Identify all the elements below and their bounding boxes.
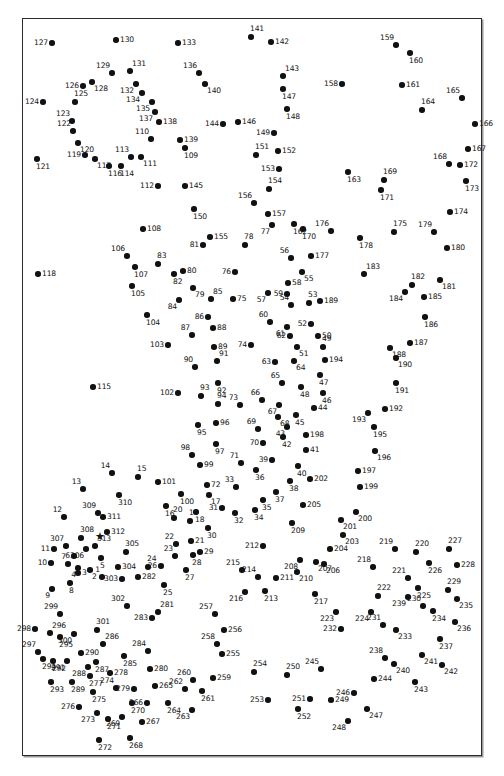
- dot-marker: [298, 384, 304, 390]
- dot-label: 217: [314, 598, 328, 606]
- dot-label: 80: [187, 267, 196, 275]
- dot-label: 90: [184, 356, 193, 364]
- dot-label: 307: [50, 535, 64, 543]
- dot-marker: [345, 169, 351, 175]
- dot-marker: [149, 615, 155, 621]
- dot-label: 309: [82, 502, 96, 510]
- dot-marker: [253, 152, 259, 158]
- dot-label: 42: [282, 441, 291, 449]
- dot-label: 47: [319, 379, 328, 387]
- dot-label: 35: [262, 504, 271, 512]
- dot-marker: [422, 314, 428, 320]
- dot-marker: [128, 154, 134, 160]
- dot-marker: [121, 653, 127, 659]
- dot-marker: [195, 422, 201, 428]
- dot-label: 110: [135, 128, 149, 136]
- dot-label: 255: [226, 650, 240, 658]
- dot-label: 106: [111, 245, 125, 253]
- dot-marker: [311, 405, 317, 411]
- dot-marker: [96, 737, 102, 743]
- dot-label: 112: [140, 182, 154, 190]
- dot-label: 18: [195, 516, 204, 524]
- dot-label: 250: [286, 663, 300, 671]
- dot-marker: [268, 39, 274, 45]
- dot-label: 198: [310, 431, 324, 439]
- dot-label: 165: [446, 87, 460, 95]
- dot-label: 64: [296, 364, 305, 372]
- dot-label: 132: [120, 87, 134, 95]
- dot-marker: [49, 586, 55, 592]
- dot-marker: [204, 482, 210, 488]
- dot-label: 297: [22, 641, 36, 649]
- dot-label: 222: [377, 584, 391, 592]
- dot-label: 96: [220, 419, 229, 427]
- dot-label: 176: [315, 220, 329, 228]
- dot-marker: [132, 264, 138, 270]
- dot-marker: [280, 73, 286, 79]
- dot-label: 226: [428, 567, 442, 575]
- dot-marker: [297, 557, 303, 563]
- dot-label: 265: [159, 682, 173, 690]
- dot-label: 139: [184, 136, 198, 144]
- dot-label: 97: [215, 448, 224, 456]
- dot-label: 55: [304, 275, 313, 283]
- dot-marker: [251, 200, 257, 206]
- dot-marker: [285, 280, 291, 286]
- dot-marker: [262, 588, 268, 594]
- dot-marker: [357, 484, 363, 490]
- dot-marker: [221, 627, 227, 633]
- dot-marker: [284, 106, 290, 112]
- dot-marker: [235, 119, 241, 125]
- dot-label: 279: [116, 685, 130, 693]
- dot-label: 210: [299, 575, 313, 583]
- dot-label: 100: [180, 498, 194, 506]
- dot-marker: [83, 546, 89, 552]
- dot-label: 211: [280, 574, 294, 582]
- dot-marker: [78, 535, 84, 541]
- dot-marker: [70, 128, 76, 134]
- dot-label: 81: [190, 241, 199, 249]
- dot-marker: [407, 50, 413, 56]
- dot-label: 9: [45, 592, 50, 600]
- dot-label: 251: [292, 695, 306, 703]
- dot-label: 150: [193, 213, 207, 221]
- dot-marker: [176, 297, 182, 303]
- dot-marker: [409, 282, 415, 288]
- dot-layer: 1234567891011121314151617181920212223242…: [0, 0, 504, 776]
- dot-label: 290: [85, 649, 99, 657]
- dot-marker: [40, 656, 46, 662]
- dot-label: 37: [275, 496, 284, 504]
- dot-label: 283: [134, 614, 148, 622]
- dot-label: 181: [442, 283, 456, 291]
- dot-marker: [133, 81, 139, 87]
- dot-marker: [272, 359, 278, 365]
- dot-marker: [284, 291, 290, 297]
- dot-label: 235: [459, 602, 473, 610]
- dot-marker: [144, 700, 150, 706]
- dot-marker: [48, 679, 54, 685]
- dot-marker: [444, 245, 450, 251]
- dot-marker: [287, 478, 293, 484]
- dot-label: 306: [70, 552, 84, 560]
- dot-marker: [61, 514, 67, 520]
- dot-label: 253: [250, 696, 264, 704]
- dot-label: 154: [268, 177, 282, 185]
- dot-label: 48: [300, 391, 309, 399]
- dot-label: 209: [291, 527, 305, 535]
- dot-label: 40: [297, 470, 306, 478]
- dot-marker: [67, 580, 73, 586]
- dot-label: 244: [378, 675, 392, 683]
- dot-label: 233: [398, 633, 412, 641]
- dot-marker: [271, 130, 277, 136]
- dot-label: 183: [366, 263, 380, 271]
- dot-marker: [161, 582, 167, 588]
- dot-label: 191: [395, 387, 409, 395]
- dot-marker: [175, 40, 181, 46]
- dot-label: 133: [182, 39, 196, 47]
- dot-label: 157: [272, 210, 286, 218]
- dot-marker: [265, 290, 271, 296]
- dot-marker: [287, 333, 293, 339]
- dot-label: 65: [271, 372, 280, 380]
- dot-label: 261: [201, 695, 215, 703]
- dot-marker: [421, 294, 427, 300]
